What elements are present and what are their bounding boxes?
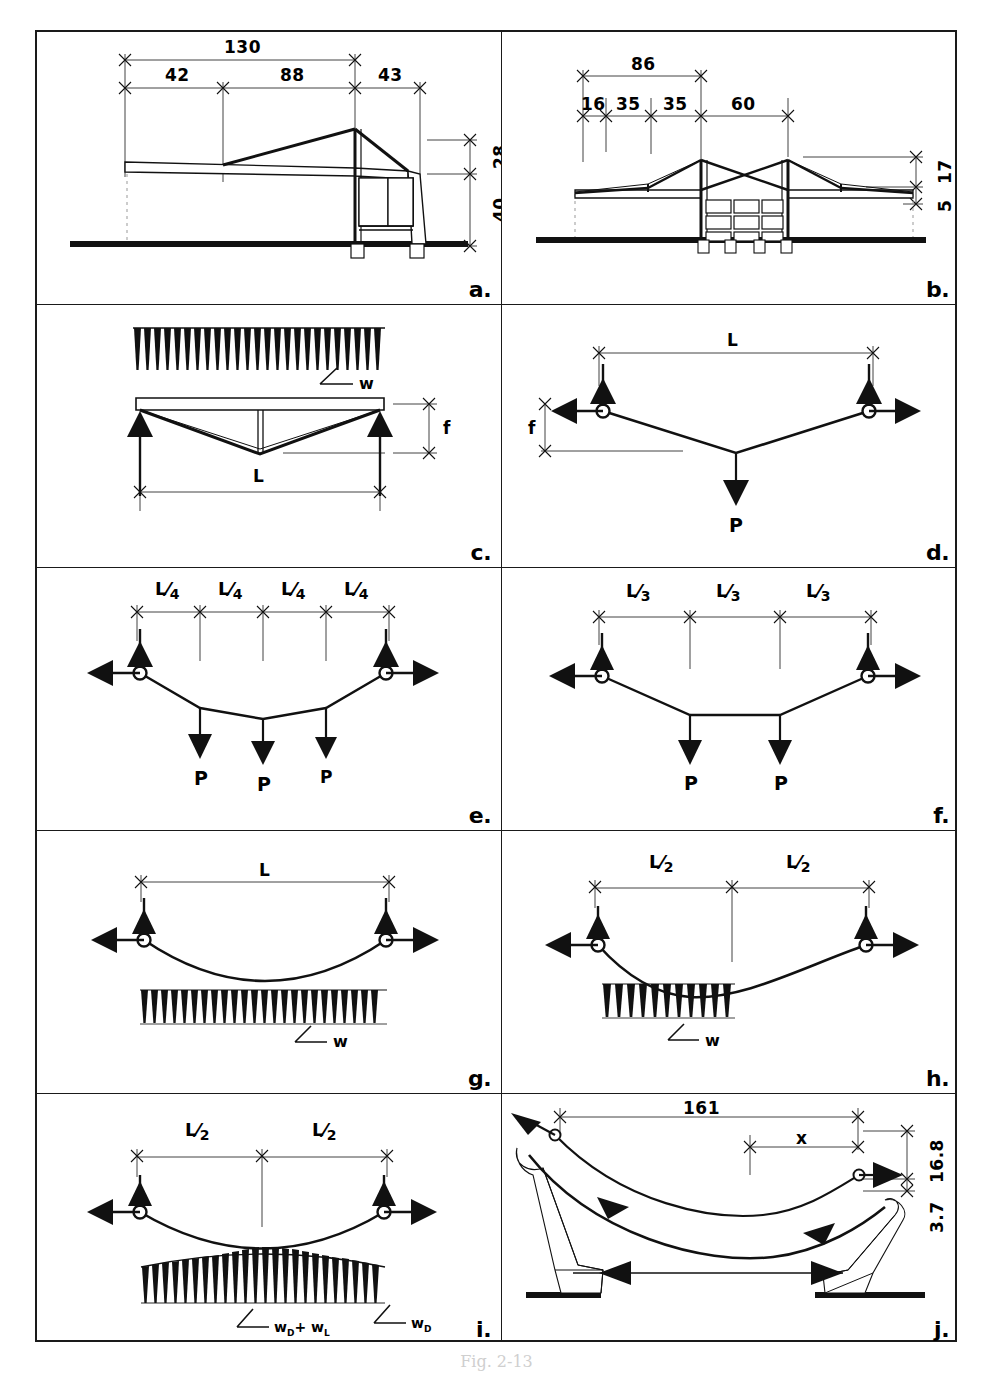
load-label-f-P1: P — [684, 772, 698, 794]
load-label-i-dead-plus-live: wD+ wL — [274, 1319, 330, 1338]
panel-d: L f P d. — [503, 306, 959, 567]
dim-h-seg1: L⁄2 — [649, 850, 673, 872]
dim-e-seg3-num: L — [281, 578, 292, 599]
dim-i-seg1-num: L — [185, 1119, 196, 1140]
dim-j-x: x — [796, 1128, 807, 1148]
panel-label-h: h. — [926, 1066, 949, 1091]
dim-d-f: f — [528, 418, 536, 438]
row-divider-4 — [37, 1093, 955, 1094]
dim-f-seg2: L⁄3 — [716, 579, 740, 601]
dim-b-35a: 35 — [616, 94, 641, 114]
dim-a-130: 130 — [224, 37, 261, 57]
row-divider-2 — [37, 567, 955, 568]
load-label-g-w: w — [333, 1032, 348, 1051]
wL-base: w — [311, 1319, 324, 1335]
panel-b: 86 16 35 35 60 17 5 b. — [503, 32, 959, 304]
dim-f-seg1-num: L — [626, 580, 637, 601]
panel-label-e: e. — [469, 803, 491, 828]
dim-f-seg3-num: L — [806, 580, 817, 601]
dim-e-seg3: L⁄4 — [281, 577, 305, 599]
load-label-f-P2: P — [774, 772, 788, 794]
dim-i-seg2-num: L — [312, 1119, 323, 1140]
panel-i: L⁄2 L⁄2 wD+ wL wD i. — [37, 1095, 501, 1344]
dim-a-88: 88 — [280, 65, 305, 85]
dim-i-seg1: L⁄2 — [185, 1118, 209, 1140]
dim-g-L: L — [259, 860, 270, 880]
wD-base: w — [274, 1319, 287, 1335]
dim-c-f: f — [443, 418, 451, 438]
panel-label-g: g. — [468, 1066, 491, 1091]
row-divider-1 — [37, 304, 955, 305]
panel-label-c: c. — [471, 540, 491, 565]
dim-b-60: 60 — [731, 94, 756, 114]
panel-g: L w g. — [37, 832, 501, 1093]
panel-label-d: d. — [926, 540, 949, 565]
load-label-i-dead-only: wD — [411, 1315, 431, 1334]
vertical-divider — [501, 32, 502, 1340]
dim-j-3-7: 3.7 — [927, 1201, 947, 1233]
dim-e-seg1: L⁄4 — [155, 577, 179, 599]
panel-label-j: j. — [934, 1317, 949, 1342]
wD-only-base: w — [411, 1315, 424, 1331]
dim-e-seg4: L⁄4 — [344, 577, 368, 599]
wL-sub: L — [324, 1328, 330, 1338]
panel-label-f: f. — [933, 803, 949, 828]
dim-c-L: L — [253, 466, 264, 486]
dim-a-40: 40 — [490, 197, 501, 222]
panel-label-a: a. — [469, 277, 491, 302]
dim-i-seg2-den: 2 — [327, 1127, 337, 1143]
dim-f-seg2-den: 3 — [731, 588, 741, 604]
load-label-h-w: w — [705, 1031, 720, 1050]
panel-label-i: i. — [476, 1317, 491, 1342]
row-divider-3 — [37, 830, 955, 831]
dim-b-35b: 35 — [663, 94, 688, 114]
dim-e-seg2: L⁄4 — [218, 577, 242, 599]
dim-f-seg1-den: 3 — [641, 588, 651, 604]
dim-a-42: 42 — [165, 65, 190, 85]
dim-e-seg4-num: L — [344, 578, 355, 599]
figure-caption: Fig. 2-13 — [0, 1352, 993, 1371]
dim-b-5: 5 — [935, 200, 955, 212]
panel-j: 161 x 16.8 3.7 j. — [503, 1095, 959, 1344]
panel-f: L⁄3 L⁄3 L⁄3 P P f. — [503, 569, 959, 830]
dim-b-16: 16 — [581, 94, 606, 114]
dim-h-seg1-num: L — [649, 851, 660, 872]
dim-f-seg3-den: 3 — [821, 588, 831, 604]
dim-j-161: 161 — [683, 1098, 720, 1118]
dim-i-seg2: L⁄2 — [312, 1118, 336, 1140]
panel-c: w L f c. — [37, 306, 501, 567]
dim-b-86: 86 — [631, 54, 656, 74]
dim-f-seg2-num: L — [716, 580, 727, 601]
dim-a-43: 43 — [378, 65, 403, 85]
panel-a: 130 42 88 43 28 40 a. — [37, 32, 501, 304]
dim-e-seg2-den: 4 — [233, 586, 243, 602]
panel-e: L⁄4 L⁄4 L⁄4 L⁄4 P P P e. — [37, 569, 501, 830]
dim-j-16-8: 16.8 — [927, 1139, 947, 1183]
load-label-e-P3: P — [320, 767, 333, 787]
dim-h-seg2-den: 2 — [801, 859, 811, 875]
dim-e-seg3-den: 4 — [296, 586, 306, 602]
dim-e-seg1-num: L — [155, 578, 166, 599]
dim-h-seg1-den: 2 — [664, 859, 674, 875]
dim-e-seg2-num: L — [218, 578, 229, 599]
panel-h: L⁄2 L⁄2 w h. — [503, 832, 959, 1093]
dim-e-seg1-den: 4 — [170, 586, 180, 602]
dim-i-seg1-den: 2 — [200, 1127, 210, 1143]
dim-a-28: 28 — [490, 144, 501, 169]
dim-h-seg2-num: L — [786, 851, 797, 872]
dim-d-L: L — [727, 330, 738, 350]
dim-b-17: 17 — [935, 159, 955, 184]
plus-op: + — [294, 1319, 306, 1335]
load-label-c-w: w — [359, 374, 374, 393]
dim-f-seg1: L⁄3 — [626, 579, 650, 601]
load-label-d-P: P — [729, 514, 743, 536]
figure-sheet: 130 42 88 43 28 40 a. — [0, 0, 993, 1387]
dim-f-seg3: L⁄3 — [806, 579, 830, 601]
load-label-e-P2: P — [257, 773, 271, 795]
wD-only-sub: D — [424, 1324, 431, 1334]
load-label-e-P1: P — [194, 767, 208, 789]
figure-frame: 130 42 88 43 28 40 a. — [35, 30, 957, 1342]
dim-h-seg2: L⁄2 — [786, 850, 810, 872]
dim-e-seg4-den: 4 — [359, 586, 369, 602]
panel-label-b: b. — [926, 277, 949, 302]
